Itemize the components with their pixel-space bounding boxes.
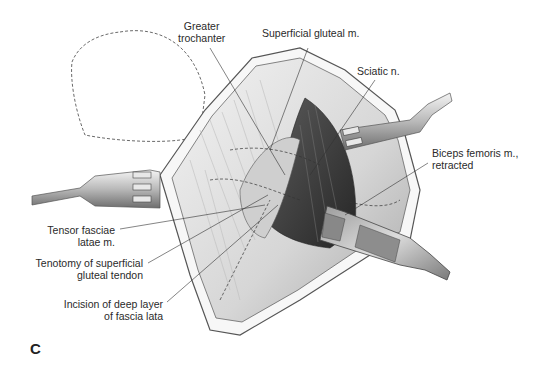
label-tensor-fasciae-latae: Tensor fasciae latae m. <box>47 224 115 248</box>
label-greater-trochanter: Greater trochanter <box>178 20 225 44</box>
label-incision-fascia-lata: Incision of deep layer of fascia lata <box>64 298 163 322</box>
label-sciatic-nerve: Sciatic n. <box>357 65 400 77</box>
left-retractor <box>32 170 160 208</box>
label-biceps-femoris: Biceps femoris m., retracted <box>432 147 518 171</box>
label-superficial-gluteal-muscle: Superficial gluteal m. <box>262 27 359 39</box>
panel-letter: C <box>30 340 41 357</box>
bone-outline-dashed <box>72 31 205 142</box>
label-tenotomy: Tenotomy of superficial gluteal tendon <box>36 257 143 281</box>
